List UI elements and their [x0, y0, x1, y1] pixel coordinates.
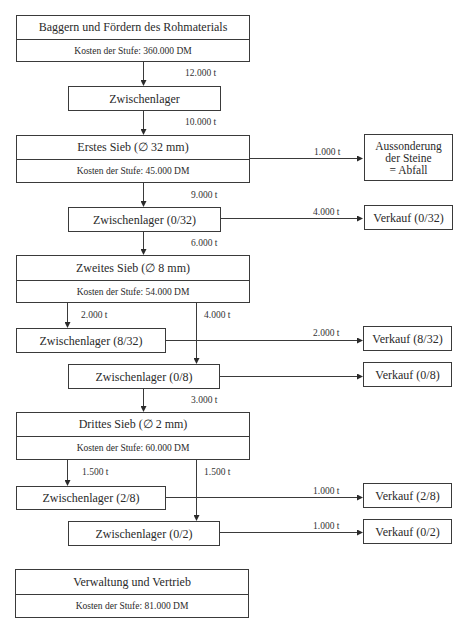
flow-label: 1.500 t: [204, 467, 230, 477]
flow-label: 4.000 t: [313, 207, 339, 217]
flow-label: 1.000 t: [313, 521, 339, 531]
storage-0-2: Zwischenlager (0/2): [68, 521, 220, 546]
output-verkauf-8-32: Verkauf (8/32): [363, 326, 452, 351]
flow-label: 2.000 t: [81, 310, 107, 320]
stage-verwaltung: Verwaltung und Vertrieb Kosten der Stufe…: [15, 569, 249, 618]
output-verkauf-0-8: Verkauf (0/8): [363, 362, 452, 387]
flow-label: 12.000 t: [185, 68, 216, 78]
flow-label: 1.000 t: [314, 147, 340, 157]
abfall-line-2: der Steine: [385, 152, 431, 164]
output-verkauf-0-32: Verkauf (0/32): [364, 205, 453, 230]
stage-cost: Kosten der Stufe: 360.000 DM: [17, 39, 249, 61]
storage-0-8: Zwischenlager (0/8): [68, 364, 220, 389]
stage-erstes-sieb: Erstes Sieb (∅ 32 mm) Kosten der Stufe: …: [16, 135, 250, 183]
flow-label: 2.000 t: [313, 328, 339, 338]
flow-label: 9.000 t: [191, 190, 217, 200]
stage-cost: Kosten der Stufe: 81.000 DM: [16, 594, 248, 617]
abfall-line-1: Aussonderung: [375, 140, 441, 152]
stage-baggern: Baggern und Fördern des Rohmaterials Kos…: [16, 15, 250, 62]
storage-zwischenlager: Zwischenlager: [68, 86, 221, 111]
stage-title: Baggern und Fördern des Rohmaterials: [17, 16, 249, 39]
output-verkauf-2-8: Verkauf (2/8): [363, 483, 452, 508]
stage-title: Erstes Sieb (∅ 32 mm): [17, 136, 249, 159]
stage-zweites-sieb: Zweites Sieb (∅ 8 mm) Kosten der Stufe: …: [16, 255, 250, 303]
flow-label: 1.500 t: [82, 467, 108, 477]
flow-label: 1.000 t: [313, 486, 339, 496]
storage-2-8: Zwischenlager (2/8): [16, 486, 166, 510]
stage-cost: Kosten der Stufe: 45.000 DM: [17, 159, 249, 182]
stage-title: Verwaltung und Vertrieb: [16, 570, 248, 594]
flow-label: 6.000 t: [191, 238, 217, 248]
stage-cost: Kosten der Stufe: 54.000 DM: [17, 280, 249, 302]
output-verkauf-0-2: Verkauf (0/2): [363, 519, 452, 544]
storage-8-32: Zwischenlager (8/32): [16, 328, 166, 353]
stage-cost: Kosten der Stufe: 60.000 DM: [17, 436, 249, 459]
abfall-line-3: = Abfall: [389, 164, 427, 176]
storage-0-32: Zwischenlager (0/32): [68, 207, 221, 232]
stage-title: Drittes Sieb (∅ 2 mm): [17, 413, 249, 436]
stage-drittes-sieb: Drittes Sieb (∅ 2 mm) Kosten der Stufe: …: [16, 412, 250, 460]
stage-title: Zweites Sieb (∅ 8 mm): [17, 256, 249, 280]
output-abfall: Aussonderung der Steine = Abfall: [364, 134, 453, 181]
flow-label: 4.000 t: [204, 310, 230, 320]
flow-label: 10.000 t: [185, 117, 216, 127]
flow-label: 3.000 t: [191, 395, 217, 405]
